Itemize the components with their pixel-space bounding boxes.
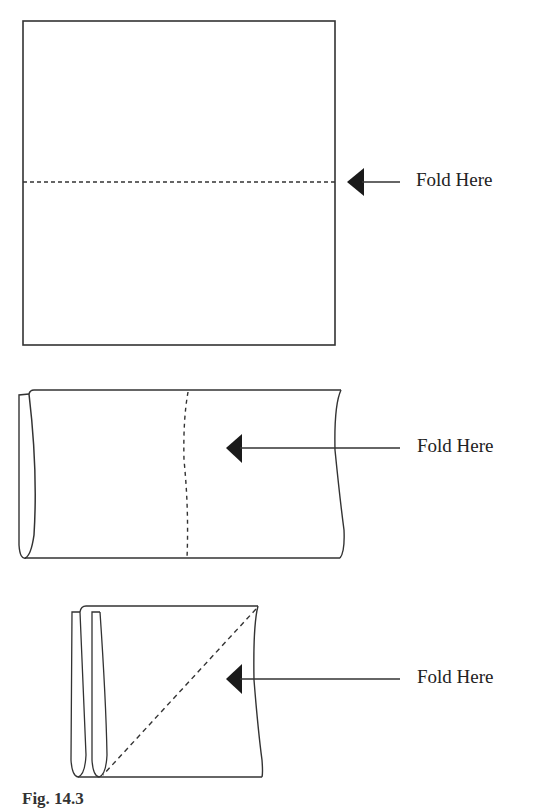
- arrow-icon-3: [226, 664, 400, 694]
- fold-line-vertical: [184, 392, 188, 558]
- step-1-sheet: [23, 21, 335, 345]
- fold-here-label-2: Fold Here: [417, 435, 494, 457]
- arrow-icon-1: [347, 168, 400, 196]
- step-3-sheet: [71, 606, 263, 777]
- fold-here-label-3: Fold Here: [417, 666, 494, 688]
- figure-caption: Fig. 14.3: [22, 789, 84, 809]
- fold-here-label-1: Fold Here: [416, 169, 493, 191]
- step-2-sheet: [19, 390, 344, 558]
- arrow-icon-2: [226, 434, 400, 463]
- fold-line-diagonal: [103, 609, 256, 775]
